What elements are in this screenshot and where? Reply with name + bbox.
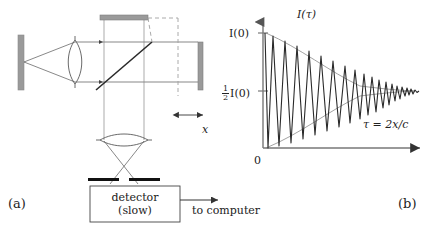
figure-svg xyxy=(0,0,447,230)
focusing-lens xyxy=(96,134,152,146)
pinhole-aperture xyxy=(88,178,160,181)
displacement-label: x xyxy=(202,123,208,136)
detector-label-secondary: (slow) xyxy=(92,204,178,217)
panel-b-caption: (b) xyxy=(398,196,416,211)
movable-right-mirror xyxy=(198,42,203,90)
panel-a-caption: (a) xyxy=(8,196,26,211)
collimated-beam xyxy=(75,42,198,82)
y-tick-label-I0: I(0) xyxy=(229,27,249,40)
fixed-top-mirror xyxy=(100,15,148,20)
half-label-suffix: I(0) xyxy=(230,87,250,100)
detector-label-primary: detector xyxy=(92,191,178,204)
beam-splitter xyxy=(96,42,152,90)
vertical-beam-arms xyxy=(104,20,144,140)
figure-container: (a) (b) detector (slow) to computer x I(… xyxy=(0,0,447,230)
origin-label: 0 xyxy=(254,154,261,167)
upper-envelope xyxy=(266,33,415,91)
source-mirror xyxy=(18,35,24,90)
y-tick-label-half-I0: 12I(0) xyxy=(222,85,250,103)
displaced-mirror-outline xyxy=(148,18,178,96)
converging-cone xyxy=(104,141,144,184)
to-computer-label: to computer xyxy=(192,204,260,217)
source-ray-bundle xyxy=(24,42,75,82)
x-axis-label: τ = 2x/c xyxy=(363,118,408,131)
fraction-denominator: 2 xyxy=(222,94,229,102)
y-axis-label: I(τ) xyxy=(297,8,316,21)
half-fraction: 12 xyxy=(222,85,229,103)
